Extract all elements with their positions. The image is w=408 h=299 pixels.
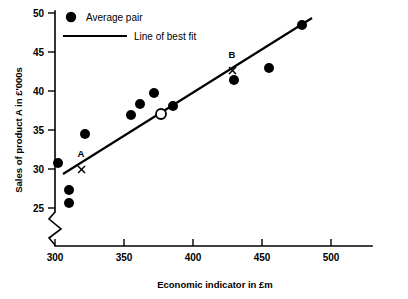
legend-label-average-pair: Average pair: [86, 12, 143, 23]
legend-label-best-fit: Line of best fit: [134, 31, 196, 42]
y-ticklabel-40: 40: [33, 86, 45, 97]
x-ticklabel-450: 450: [254, 252, 271, 263]
data-point: [64, 185, 74, 195]
chart-container: 50 45 40 35 30 25 300 350 400 450 500 Sa…: [0, 0, 408, 299]
data-point: [264, 63, 274, 73]
scatter-plot-svg: 50 45 40 35 30 25 300 350 400 450 500 Sa…: [0, 0, 408, 299]
x-ticklabel-400: 400: [185, 252, 202, 263]
y-ticklabel-35: 35: [33, 125, 45, 136]
x-ticklabel-300: 300: [47, 252, 64, 263]
x-ticklabel-500: 500: [323, 252, 340, 263]
data-point: [80, 129, 90, 139]
y-axis-title: Sales of product A in £'000s: [13, 67, 24, 193]
x-axis-title: Economic indicator in £m: [157, 279, 273, 290]
mean-point-marker: [156, 109, 166, 119]
annotation-label-b: B: [229, 49, 236, 60]
data-point: [149, 88, 159, 98]
data-point: [168, 101, 178, 111]
legend-marker-average-pair-icon: [66, 12, 76, 22]
data-point: [53, 158, 63, 168]
x-ticklabel-350: 350: [116, 252, 133, 263]
y-ticklabel-30: 30: [33, 164, 45, 175]
annotation-label-a: A: [78, 148, 85, 159]
data-point: [229, 75, 239, 85]
legend: Average pair Line of best fit: [63, 12, 196, 42]
y-ticklabel-50: 50: [33, 8, 45, 19]
data-point: [126, 110, 136, 120]
y-ticklabel-45: 45: [33, 47, 45, 58]
data-points-group: [53, 20, 307, 208]
data-point: [297, 20, 307, 30]
data-point: [64, 198, 74, 208]
data-point: [135, 99, 145, 109]
y-ticklabel-25: 25: [33, 203, 45, 214]
